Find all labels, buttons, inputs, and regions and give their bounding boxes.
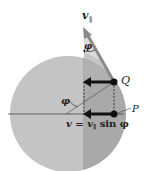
label-phi-center: φ: [61, 95, 70, 106]
equation-rhs: sin φ: [96, 118, 129, 129]
point-p-dot: [111, 111, 118, 118]
v-parallel-arrowhead: [83, 27, 92, 39]
label-v-parallel: v: [82, 9, 89, 22]
equation-lhs: v = v: [66, 118, 93, 129]
diagram-canvas: v ∥ φ Q P φ v = v∥ sin φ: [0, 0, 161, 171]
label-v-parallel-sub: ∥: [89, 16, 92, 24]
label-q: Q: [121, 74, 130, 87]
label-p: P: [131, 103, 139, 114]
equation-label: v = v∥ sin φ: [66, 118, 129, 130]
label-phi-top: φ: [84, 41, 93, 51]
point-q-dot: [111, 79, 118, 86]
